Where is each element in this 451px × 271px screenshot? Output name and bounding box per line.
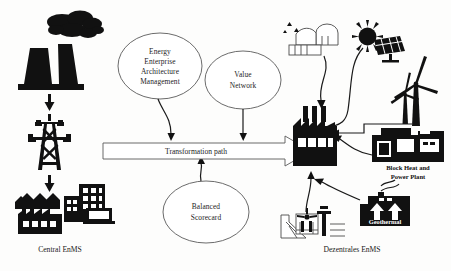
consumers-icon bbox=[15, 184, 115, 234]
connector-geothermal-to-factory bbox=[314, 179, 360, 201]
geothermal-label: Geothermal bbox=[369, 218, 402, 225]
wind-turbines-icon bbox=[391, 56, 438, 126]
decentral-factory-icon bbox=[293, 106, 337, 166]
ellipse-energy-enterprise-architecture-management: Energy Enterprise Architecture Managemen… bbox=[118, 33, 202, 99]
connector-balanced-scorecard-to-path bbox=[198, 156, 206, 181]
value-network-line-2: Network bbox=[230, 81, 257, 90]
eeam-line-3: Architecture bbox=[141, 67, 180, 76]
eeam-line-2: Enterprise bbox=[144, 57, 176, 66]
left-caption: Central EnMS bbox=[38, 245, 82, 254]
transformation-path-label: Transformation path bbox=[165, 147, 227, 156]
connector-bhkw-to-factory bbox=[332, 136, 372, 156]
arrow-pylon-to-consumers bbox=[45, 175, 55, 192]
solar-panel-icon bbox=[352, 20, 405, 63]
bhkw-label-line-1: Block Heat and bbox=[386, 164, 430, 171]
geothermal-icon: Geothermal bbox=[360, 180, 410, 226]
eeam-line-1: Energy bbox=[149, 47, 171, 56]
connector-eeam-to-path bbox=[158, 99, 175, 141]
connector-hydro-to-factory bbox=[306, 171, 315, 212]
ellipse-balanced-scorecard: Balanced Scorecard bbox=[163, 181, 249, 243]
balanced-scorecard-line-1: Balanced bbox=[192, 202, 220, 211]
biogas-plant-icon bbox=[283, 22, 338, 55]
block-heat-power-plant-icon: Block Heat and Power Plant bbox=[372, 128, 444, 180]
bhkw-label-line-2: Power Plant bbox=[391, 173, 426, 180]
connector-solar-to-factory bbox=[327, 48, 363, 130]
right-caption: Dezentrales EnMS bbox=[323, 245, 380, 254]
eeam-line-4: Management bbox=[140, 77, 180, 86]
balanced-scorecard-line-2: Scorecard bbox=[191, 213, 222, 222]
transformation-path-arrow: Transformation path bbox=[103, 136, 311, 166]
connector-value-network-to-path bbox=[240, 109, 248, 141]
transmission-pylon-icon bbox=[28, 114, 71, 170]
diagram-canvas: Central EnMS Energy Enterprise Architect… bbox=[0, 0, 451, 271]
ellipse-value-network: Value Network bbox=[205, 51, 281, 109]
hydro-power-plant-icon bbox=[281, 206, 345, 238]
value-network-line-1: Value bbox=[234, 70, 252, 79]
cooling-towers-icon bbox=[18, 11, 104, 91]
connector-biogas-to-factory bbox=[317, 56, 326, 109]
arrow-towers-to-pylon bbox=[45, 94, 55, 111]
